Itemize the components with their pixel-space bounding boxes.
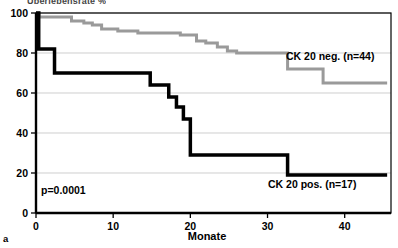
series-label-ck20-pos: CK 20 pos. (n=17) (268, 179, 356, 190)
gridlines (36, 13, 391, 173)
y-tick-label: 20 (2, 168, 28, 179)
x-axis-title: Monate (147, 231, 267, 242)
series-label-ck20-neg: CK 20 neg. (n=44) (286, 51, 374, 62)
panel-letter: a (3, 234, 8, 244)
y-tick-label: 100 (2, 8, 28, 19)
x-tick-label: 40 (330, 221, 360, 232)
kaplan-meier-figure: Überlebensrate % 020406080100 010203040 … (0, 0, 398, 248)
y-tick-label: 80 (2, 48, 28, 59)
survival-plot (0, 0, 398, 248)
y-tick-label: 40 (2, 128, 28, 139)
y-tick-label: 60 (2, 88, 28, 99)
x-tick-label: 30 (253, 221, 283, 232)
cropped-header-text: Überlebensrate % (27, 0, 106, 4)
y-tick-label: 0 (2, 208, 28, 219)
series-layer (36, 13, 387, 175)
series-line-ck20-pos (36, 13, 387, 175)
x-tick-label: 0 (21, 221, 51, 232)
x-tick-label: 10 (98, 221, 128, 232)
p-value-annotation: p=0.0001 (41, 185, 86, 196)
